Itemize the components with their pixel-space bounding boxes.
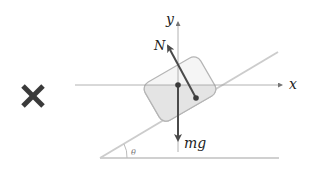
- normal-force-label: N: [153, 38, 166, 53]
- cross-mark-icon: [23, 86, 43, 106]
- x-axis-label: x: [289, 76, 297, 92]
- center-of-mass-dot: [175, 82, 181, 88]
- weight-label: mg: [184, 135, 206, 151]
- free-body-diagram: x y mg N θ: [0, 0, 309, 172]
- angle-label: θ: [131, 148, 136, 157]
- y-axis-label: y: [165, 11, 175, 27]
- angle-arc: [124, 144, 127, 158]
- contact-point-dot: [193, 95, 199, 101]
